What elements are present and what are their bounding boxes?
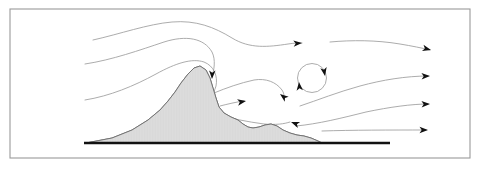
airflow-diagram-svg: [0, 0, 480, 169]
figure-root: [0, 0, 480, 169]
